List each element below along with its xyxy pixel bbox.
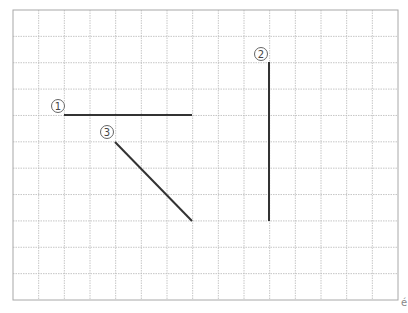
- segment-label-3: 3: [100, 125, 115, 140]
- corner-glyph: é: [401, 298, 407, 308]
- segment-label-1: 1: [51, 99, 66, 114]
- segment-3: [115, 142, 192, 221]
- grid-lines: [13, 10, 398, 300]
- svg-text:3: 3: [104, 127, 110, 138]
- svg-text:1: 1: [55, 101, 61, 112]
- svg-text:2: 2: [258, 49, 264, 60]
- grid-diagram: 123: [0, 0, 408, 313]
- segment-label-2: 2: [254, 47, 269, 62]
- grid-border: [13, 10, 398, 300]
- segment-labels: 123: [51, 47, 269, 140]
